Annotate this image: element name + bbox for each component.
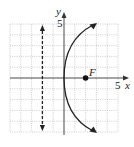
x-axis-label: x [125, 80, 130, 91]
directrix-down-arrow-icon [40, 125, 45, 131]
graph [0, 0, 134, 147]
focus-point [83, 75, 89, 81]
x-tick-label: 5 [115, 80, 121, 91]
axes [10, 12, 129, 135]
directrix-up-arrow-icon [40, 25, 45, 31]
y-tick-label: 5 [57, 18, 63, 29]
y-axis-label: y [56, 6, 61, 17]
focus-label: F [89, 67, 96, 78]
